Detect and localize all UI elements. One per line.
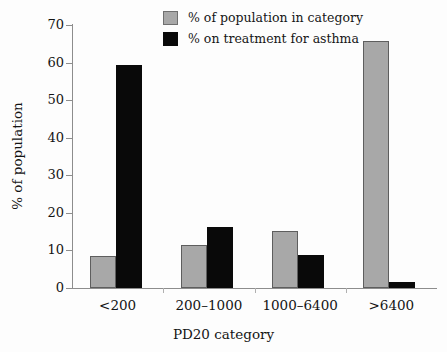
bar-population-0 (90, 256, 116, 288)
bar-population-1 (181, 245, 207, 288)
y-tick-mark (66, 213, 72, 214)
bar-population-3 (363, 41, 389, 288)
bar-treatment-3 (389, 282, 415, 288)
y-tick-label: 10 (47, 241, 64, 258)
y-tick-mark (66, 250, 72, 251)
y-axis-title: % of population (9, 56, 25, 256)
y-tick-30: 30 (72, 175, 73, 176)
x-axis-title: PD20 category (0, 326, 447, 342)
x-separator-2 (255, 288, 256, 293)
gray-swatch-icon (163, 11, 178, 25)
y-tick-50: 50 (72, 100, 73, 101)
y-tick-20: 20 (72, 213, 73, 214)
y-tick-mark (66, 138, 72, 139)
y-tick-label: 0 (56, 279, 64, 296)
y-tick-label: 40 (47, 129, 64, 146)
y-tick-40: 40 (72, 138, 73, 139)
y-tick-70: 70 (72, 25, 73, 26)
y-tick-0: 0 (72, 288, 73, 289)
y-tick-label: 60 (47, 54, 64, 71)
y-tick-mark (66, 25, 72, 26)
bar-treatment-2 (298, 255, 324, 288)
y-tick-60: 60 (72, 63, 73, 64)
y-tick-mark (66, 175, 72, 176)
y-tick-10: 10 (72, 250, 73, 251)
y-tick-mark (66, 288, 72, 289)
x-separator-3 (346, 288, 347, 293)
x-separator-1 (163, 288, 164, 293)
y-tick-label: 50 (47, 91, 64, 108)
legend-label-population: % of population in category (188, 11, 363, 25)
y-tick-mark (66, 100, 72, 101)
bar-chart-figure: % of population in category % on treatme… (0, 0, 447, 352)
y-tick-label: 30 (47, 166, 64, 183)
plot-area: 010203040506070 (72, 25, 437, 288)
y-tick-label: 20 (47, 204, 64, 221)
y-tick-label: 70 (47, 16, 64, 33)
bar-treatment-0 (116, 65, 142, 288)
bar-treatment-1 (207, 227, 233, 288)
bar-population-2 (272, 231, 298, 288)
x-category-label-3: >6400 (331, 296, 447, 314)
y-tick-mark (66, 63, 72, 64)
